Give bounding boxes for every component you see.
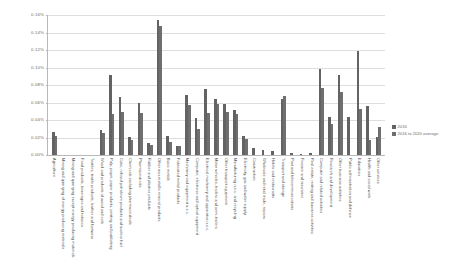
bar xyxy=(207,113,210,155)
bar-series-container xyxy=(48,15,385,155)
bar-group xyxy=(202,15,212,155)
x-axis-label-slot: Construction xyxy=(249,158,259,262)
x-axis-label: Hotels and restaurants xyxy=(271,158,275,198)
x-axis-label-slot: Transport and storage xyxy=(278,158,288,262)
bar-chart: 0.16%0.14%0.12%0.10%0.08%0.06%0.04%0.02%… xyxy=(0,0,460,263)
bar-group xyxy=(307,15,317,155)
x-axis-label: Wood and products of wood and cork xyxy=(100,158,104,224)
x-axis-label: Other services xyxy=(376,158,380,184)
bar xyxy=(55,136,58,155)
bar-group xyxy=(297,15,307,155)
x-axis-label: Other transport equipment xyxy=(224,158,228,205)
x-axis-label-slot: Textiles, textile products, leather and … xyxy=(87,158,97,262)
x-axis-label: Electrical machinery and apparatus n.e.c… xyxy=(205,158,209,231)
bar xyxy=(283,96,286,155)
bar-group xyxy=(326,15,336,155)
bar xyxy=(150,145,153,155)
bar-group xyxy=(193,15,203,155)
x-axis-label: Computer and related activities xyxy=(319,158,323,213)
x-axis-label: Rubber and plastics products xyxy=(147,158,151,210)
y-axis-tick-mark xyxy=(46,155,48,156)
bar xyxy=(226,112,229,155)
x-axis-label: Other business activities xyxy=(338,158,342,201)
x-axis-label: Computer, electronic and optical equipme… xyxy=(195,158,199,235)
x-axis-label: Motor vehicles, trailers and semi-traile… xyxy=(214,158,218,229)
legend-swatch-icon xyxy=(392,132,396,136)
bar-group xyxy=(240,15,250,155)
bar-group xyxy=(117,15,127,155)
x-axis-label: Real estate, renting and business activi… xyxy=(310,158,314,234)
x-axis-label-slot: Machinery and equipment n.e.c. xyxy=(183,158,193,262)
bar xyxy=(369,140,372,155)
bar xyxy=(340,92,343,155)
x-axis-label-slot: Other business activities xyxy=(335,158,345,262)
x-axis-label-slot: Other services xyxy=(374,158,384,262)
x-axis-label-slot: Real estate, renting and business activi… xyxy=(307,158,317,262)
bar xyxy=(245,139,248,155)
bar-group xyxy=(345,15,355,155)
bar-group xyxy=(250,15,260,155)
bar-group xyxy=(355,15,365,155)
x-axis-label: Post and telecommunications xyxy=(290,158,294,210)
bar xyxy=(197,129,200,155)
legend-swatch-icon xyxy=(392,125,396,129)
x-axis-label-slot: Food products, beverages and tobacco xyxy=(78,158,88,262)
x-axis-label: Fabricated metal products xyxy=(176,158,180,204)
x-axis-label: Pulp, paper, paper products, printing an… xyxy=(109,158,113,250)
x-axis-label: Transport and storage xyxy=(281,158,285,197)
bar-group xyxy=(98,15,108,155)
x-axis-label-slot: Mining and quarrying of energy producing… xyxy=(59,158,69,262)
bar-group xyxy=(136,15,146,155)
x-axis-label-slot: Motor vehicles, trailers and semi-traile… xyxy=(211,158,221,262)
x-axis-label: Finance and insurance xyxy=(300,158,304,198)
x-axis-label: Education xyxy=(357,158,361,176)
bar-group xyxy=(374,15,384,155)
x-axis-label: Wholesale and retail trade, repairs xyxy=(262,158,266,219)
bar xyxy=(121,112,124,155)
bar xyxy=(290,153,293,155)
chart-legend: 2016 2016 to 2020 average xyxy=(392,125,438,136)
bar-group xyxy=(164,15,174,155)
x-axis-label-slot: Finance and insurance xyxy=(297,158,307,262)
x-axis-label: Other non-metallic mineral products xyxy=(157,158,161,221)
x-axis-label-slot: Pulp, paper, paper products, printing an… xyxy=(106,158,116,262)
bar xyxy=(359,109,362,155)
x-axis-label: Construction xyxy=(252,158,256,180)
x-axis-label-slot: Electrical machinery and apparatus n.e.c… xyxy=(202,158,212,262)
x-axis-label-slot: Other transport equipment xyxy=(221,158,231,262)
x-axis-label-slot: Computer and related activities xyxy=(316,158,326,262)
x-axis-label: Agriculture xyxy=(52,158,56,177)
x-axis-label-slot: Agriculture xyxy=(49,158,59,262)
x-axis-label: Research and development xyxy=(329,158,333,207)
x-axis-label: Food products, beverages and tobacco xyxy=(80,158,84,227)
x-axis-label: Public administration and defence xyxy=(348,158,352,218)
bar xyxy=(112,114,115,155)
x-axis-label: Machinery and equipment n.e.c. xyxy=(185,158,189,215)
x-axis-label-slot: Coke, refined petroleum products and nuc… xyxy=(116,158,126,262)
bar-group xyxy=(259,15,269,155)
x-axis-label: Coke, refined petroleum products and nuc… xyxy=(119,158,123,247)
bar xyxy=(140,113,143,155)
x-axis-label-slot: Fabricated metal products xyxy=(173,158,183,262)
legend-label: 2016 xyxy=(398,125,407,129)
bar xyxy=(271,151,274,155)
bar xyxy=(188,105,191,155)
x-axis-label-slot: Post and telecommunications xyxy=(288,158,298,262)
bar-group xyxy=(335,15,345,155)
bar-group xyxy=(316,15,326,155)
bar-group xyxy=(212,15,222,155)
legend-label: 2016 to 2020 average xyxy=(398,132,439,136)
bar-group xyxy=(126,15,136,155)
x-axis-label-slot: Computer, electronic and optical equipme… xyxy=(192,158,202,262)
x-axis-label: Pharmaceuticals xyxy=(138,158,142,188)
x-axis-label-slot: Rubber and plastics products xyxy=(144,158,154,262)
x-axis-label-slot: Chemicals excluding pharmaceuticals xyxy=(125,158,135,262)
bar-group xyxy=(288,15,298,155)
x-axis-label-slot: Electricity, gas and water supply xyxy=(240,158,250,262)
bar xyxy=(217,104,220,155)
x-axis-label-slot: Hotels and restaurants xyxy=(269,158,279,262)
x-axis-label: Electricity, gas and water supply xyxy=(243,158,247,215)
bar-group xyxy=(278,15,288,155)
x-axis-label-slot: Research and development xyxy=(326,158,336,262)
x-axis-label-slot: Mining and quarrying except energy produ… xyxy=(68,158,78,262)
